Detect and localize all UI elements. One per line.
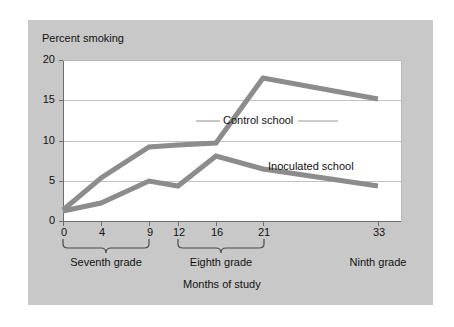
grade-label-seventh: Seventh grade — [56, 256, 156, 268]
series-line-control — [63, 78, 378, 210]
figure-page: Percent smoking 20 15 10 5 0 0 4 9 1 — [0, 0, 454, 327]
series-label-control: Control school — [223, 114, 293, 126]
grade-label-eighth: Eighth grade — [171, 256, 271, 268]
x-axis-title: Months of study — [183, 278, 261, 290]
series-label-inoculated: Inoculated school — [268, 160, 354, 172]
bracket-seventh-grade — [63, 239, 149, 253]
bracket-eighth-grade — [178, 239, 264, 253]
figure-card: Percent smoking 20 15 10 5 0 0 4 9 1 — [28, 20, 433, 305]
grade-label-ninth: Ninth grade — [328, 256, 428, 268]
